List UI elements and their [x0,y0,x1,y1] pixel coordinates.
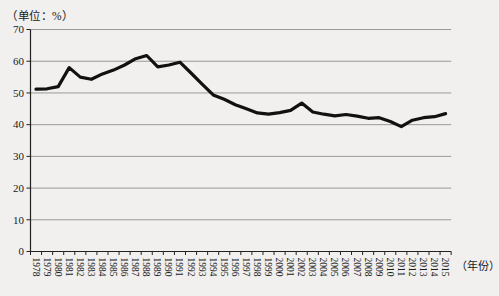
x-tick-label: 1995 [219,258,229,277]
x-tick-label: 1984 [97,258,107,277]
y-tick-label: 60 [13,55,25,67]
x-tick-label: 1996 [230,258,240,277]
x-tick-label: 2007 [352,258,362,277]
x-tick-label: 1981 [64,258,74,277]
x-tick-label: 1994 [208,258,218,277]
x-tick-label: 1980 [53,258,63,277]
x-tick-label: 2001 [285,258,295,277]
x-tick-label: 1982 [75,258,85,277]
x-tick-label: 2010 [385,258,395,277]
x-tick-label: 2012 [407,258,417,277]
x-tick-label: 2011 [396,258,406,277]
x-tick-label: 2008 [363,258,373,277]
y-tick-label: 20 [13,182,25,194]
x-tick-label: 2005 [329,258,339,277]
x-tick-label: 1987 [130,258,140,277]
unit-label: （单位：%） [6,7,74,23]
x-tick-label: 2004 [318,258,328,277]
x-axis-caption: （年份） [456,257,499,273]
x-tick-label: 2006 [340,258,350,277]
x-tick-label: 1985 [108,258,118,277]
y-tick-label: 50 [13,87,25,99]
chart-page: （单位：%） 010203040506070197819791980198119… [0,0,499,296]
x-tick-label: 1986 [119,258,129,277]
x-tick-label: 2014 [429,258,439,277]
x-tick-label: 1992 [186,258,196,277]
y-tick-label: 70 [13,23,25,35]
data-line [36,56,446,127]
x-tick-label: 1997 [241,258,251,277]
x-tick-label: 1983 [86,258,96,277]
y-tick-label: 30 [13,150,25,162]
x-tick-label: 2003 [307,258,317,277]
x-tick-label: 2002 [296,258,306,277]
x-tick-label: 1988 [141,258,151,277]
x-tick-label: 1998 [252,258,262,277]
x-tick-label: 1993 [197,258,207,277]
line-chart-svg: 0102030405060701978197919801981198219831… [0,0,499,296]
y-tick-label: 0 [19,245,25,257]
x-tick-label: 1989 [152,258,162,277]
x-tick-label: 1999 [263,258,273,277]
x-tick-label: 1990 [163,258,173,277]
y-tick-label: 10 [13,214,25,226]
x-tick-label: 1991 [174,258,184,277]
x-tick-label: 1978 [31,258,41,277]
x-tick-label: 2015 [440,258,450,277]
x-tick-label: 2000 [274,258,284,277]
x-tick-label: 1979 [42,258,52,277]
y-tick-label: 40 [13,118,25,130]
x-tick-label: 2009 [374,258,384,277]
x-tick-label: 2013 [418,258,428,277]
